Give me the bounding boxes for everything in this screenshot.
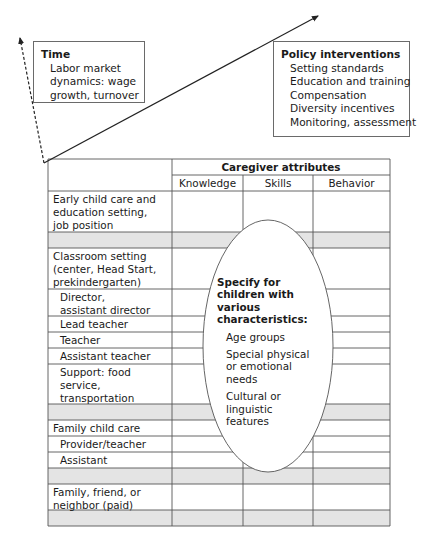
policy-box-title: Policy interventions	[281, 48, 402, 62]
row-label-line: Director,	[60, 291, 150, 304]
table-row-label: Support: foodservice,transportation	[60, 366, 134, 404]
column-header-knowledge: Knowledge	[172, 177, 243, 189]
row-label-line: Provider/teacher	[60, 438, 146, 451]
row-label-line: assistant director	[60, 304, 150, 317]
policy-item: Diversity incentives	[281, 102, 402, 116]
table-row-label: Provider/teacher	[60, 438, 146, 451]
ellipse-text: Specify for children with various charac…	[217, 276, 327, 427]
row-label-line: transportation	[60, 392, 134, 405]
policy-item: Monitoring, assessment	[281, 116, 402, 130]
ellipse-item-line: Cultural or	[226, 390, 327, 402]
ellipse-item-line: needs	[226, 373, 327, 385]
column-header-behavior: Behavior	[313, 177, 390, 189]
row-label-line: job position	[53, 219, 156, 232]
ellipse-item-line: features	[226, 415, 327, 427]
row-label-line: education setting,	[53, 206, 156, 219]
row-label-line: Classroom setting	[53, 250, 156, 263]
row-label-line: Lead teacher	[60, 318, 128, 331]
ellipse-item-line: Special physical	[226, 348, 327, 360]
row-label-line: Assistant	[60, 454, 107, 467]
row-label-line: Assistant teacher	[60, 350, 150, 363]
table-row-label: Family child care	[53, 422, 140, 435]
table-row-label: Early child care andeducation setting,jo…	[53, 193, 156, 231]
table-row-label: Family, friend, orneighbor (paid)	[53, 486, 141, 512]
row-label-line: (center, Head Start,	[53, 263, 156, 276]
table-row-label: Lead teacher	[60, 318, 128, 331]
ellipse-title: Specify for	[217, 276, 327, 288]
shaded-row	[48, 510, 390, 526]
time-box-line: Labor market	[41, 62, 137, 76]
row-label-line: Early child care and	[53, 193, 156, 206]
column-header-skills: Skills	[243, 177, 313, 189]
policy-item: Setting standards	[281, 62, 402, 76]
ellipse-item-line: linguistic	[226, 403, 327, 415]
ellipse-item-line: or emotional	[226, 360, 327, 372]
row-label-line: neighbor (paid)	[53, 499, 141, 512]
row-label-line: Family, friend, or	[53, 486, 141, 499]
time-box-title: Time	[41, 48, 137, 62]
ellipse-item-special-needs: Special physical or emotional needs	[217, 348, 327, 385]
ellipse-title: children with	[217, 288, 327, 300]
row-label-line: Teacher	[60, 334, 100, 347]
policy-item: Education and training	[281, 75, 402, 89]
table-row-label: Assistant teacher	[60, 350, 150, 363]
time-box-line: growth, turnover	[41, 89, 137, 103]
table-row-label: Teacher	[60, 334, 100, 347]
ellipse-item-line: Age groups	[226, 331, 327, 343]
policy-item: Compensation	[281, 89, 402, 103]
caregiver-attributes-header: Caregiver attributes	[172, 161, 390, 173]
ellipse-title: characteristics:	[217, 313, 327, 325]
row-label-line: Family child care	[53, 422, 140, 435]
policy-interventions-box: Policy interventions Setting standards E…	[273, 41, 410, 137]
ellipse-item-cultural: Cultural or linguistic features	[217, 390, 327, 427]
row-label-line: prekindergarten)	[53, 276, 156, 289]
ellipse-item-age-groups: Age groups	[217, 331, 327, 343]
ellipse-title: various	[217, 301, 327, 313]
table-row-label: Assistant	[60, 454, 107, 467]
row-label-line: service,	[60, 379, 134, 392]
row-label-line: Support: food	[60, 366, 134, 379]
table-row-label: Classroom setting(center, Head Start,pre…	[53, 250, 156, 288]
table-row-label: Director,assistant director	[60, 291, 150, 317]
shaded-row	[48, 468, 390, 484]
time-box: Time Labor market dynamics: wage growth,…	[33, 41, 145, 103]
time-box-line: dynamics: wage	[41, 75, 137, 89]
shaded-row	[48, 232, 390, 248]
